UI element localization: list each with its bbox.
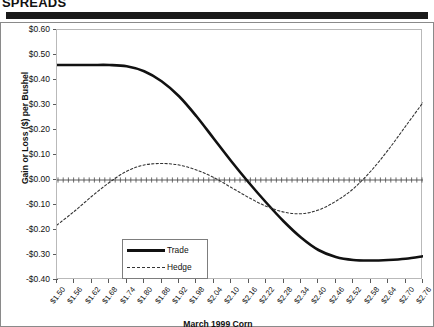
y-axis-tick-label: $0.40	[9, 74, 50, 84]
y-axis-tick-label: -$0.40	[9, 274, 50, 284]
x-axis-tick	[265, 279, 266, 283]
legend-item-trade: Trade	[127, 243, 207, 257]
x-axis-tick	[108, 279, 109, 283]
x-axis-tick	[317, 279, 318, 283]
series-canvas	[57, 30, 423, 280]
x-axis-tick	[126, 279, 127, 283]
x-axis-tick	[143, 279, 144, 283]
legend-swatch-hedge	[127, 267, 165, 268]
x-axis-tick	[161, 279, 162, 283]
x-axis-tick	[422, 279, 423, 283]
series-line-trade	[57, 65, 423, 261]
x-axis-tick	[73, 279, 74, 283]
x-axis-tick	[283, 279, 284, 283]
series-line-hedge	[57, 103, 423, 226]
legend-item-hedge: Hedge	[127, 260, 207, 274]
x-axis-title: March 1999 Corn	[1, 319, 434, 327]
x-axis-tick	[335, 279, 336, 283]
figure-root: SPREADS Gain or Loss ($) per Bushel $0.6…	[0, 0, 434, 327]
legend-label-trade: Trade	[167, 243, 189, 257]
y-axis-tick-label: $0.30	[9, 99, 50, 109]
x-axis-tick	[352, 279, 353, 283]
x-axis-tick	[230, 279, 231, 283]
y-axis-tick-label: $0.60	[9, 24, 50, 34]
x-axis-tick	[195, 279, 196, 283]
data-series-group	[57, 65, 423, 261]
x-axis-tick	[178, 279, 179, 283]
y-axis-tick-label: -$0.20	[9, 224, 50, 234]
y-axis-tick-label: -$0.30	[9, 249, 50, 259]
header-rule	[6, 12, 428, 19]
chart-legend: Trade Hedge	[122, 239, 208, 279]
x-axis-tick	[370, 279, 371, 283]
legend-swatch-trade	[127, 249, 165, 252]
x-axis-tick	[405, 279, 406, 283]
y-axis-tick-label: $0.10	[9, 149, 50, 159]
x-axis-tick	[300, 279, 301, 283]
plot-area: Trade Hedge	[56, 29, 422, 279]
y-axis-tick-label: $0.50	[9, 49, 50, 59]
x-axis-tick	[91, 279, 92, 283]
x-axis-tick	[213, 279, 214, 283]
x-axis-tick	[56, 279, 57, 283]
y-axis-tick-label: -$0.10	[9, 199, 50, 209]
y-axis-tick-label: $0.00	[9, 174, 50, 184]
chart-figure: Gain or Loss ($) per Bushel $0.60$0.50$0…	[0, 22, 434, 327]
legend-label-hedge: Hedge	[167, 260, 192, 274]
x-axis-tick	[248, 279, 249, 283]
x-axis-tick	[387, 279, 388, 283]
page-header-title: SPREADS	[2, 0, 66, 10]
y-axis-tick-label: $0.20	[9, 124, 50, 134]
